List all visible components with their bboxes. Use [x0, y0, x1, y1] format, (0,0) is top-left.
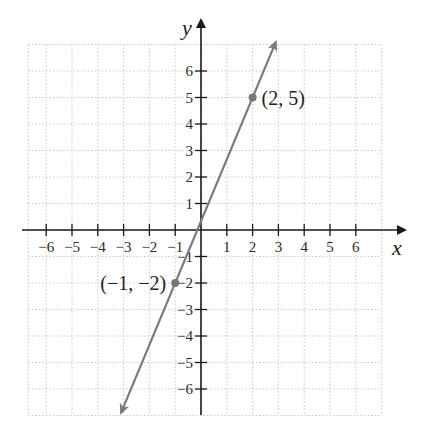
- data-point: [171, 279, 179, 287]
- x-axis-label: x: [391, 235, 402, 260]
- y-tick-label: −5: [177, 355, 193, 371]
- x-tick-label: 2: [249, 239, 257, 255]
- y-tick-label: 5: [186, 90, 194, 106]
- point-label: (−1, −2): [100, 272, 166, 295]
- y-tick-label: −2: [177, 275, 193, 291]
- point-label: (2, 5): [262, 87, 305, 110]
- y-tick-label: 1: [186, 196, 194, 212]
- x-tick-label: −4: [90, 239, 106, 255]
- x-tick-label: 1: [223, 239, 231, 255]
- data-point: [249, 94, 257, 102]
- x-tick-label: 4: [300, 239, 308, 255]
- axes: [22, 20, 405, 415]
- y-tick-label: 2: [186, 169, 194, 185]
- y-tick-label: −3: [177, 302, 193, 318]
- y-tick-label: 3: [186, 143, 194, 159]
- plotted-points: (2, 5)(−1, −2): [100, 87, 305, 296]
- x-tick-label: −2: [141, 239, 157, 255]
- y-tick-label: −6: [177, 381, 193, 397]
- x-tick-label: 3: [275, 239, 283, 255]
- y-tick-label: 6: [186, 63, 194, 79]
- x-tick-label: −6: [38, 239, 54, 255]
- y-axis-label: y: [180, 15, 192, 40]
- y-tick-label: 4: [186, 116, 194, 132]
- x-tick-label: −3: [116, 239, 132, 255]
- coordinate-plane: −6−5−4−3−2−1123456−6−5−4−3−2−1123456 (2,…: [0, 0, 422, 440]
- x-tick-label: 5: [326, 239, 334, 255]
- y-tick-label: −4: [177, 328, 193, 344]
- x-tick-label: 6: [352, 239, 360, 255]
- x-tick-label: −5: [64, 239, 80, 255]
